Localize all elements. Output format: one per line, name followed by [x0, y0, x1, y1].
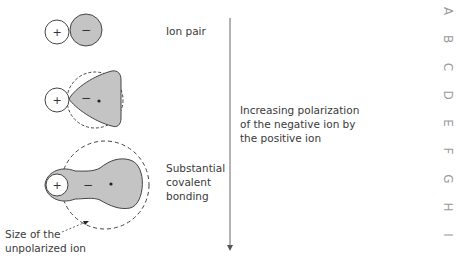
nucleus-dot: [109, 182, 112, 185]
plus-sign: +: [52, 179, 61, 192]
ion-pair-label: Ion pair: [166, 24, 206, 38]
side-index-f: F: [441, 143, 455, 159]
pointer-arrowhead: [83, 221, 89, 225]
polarization-label-line3: the positive ion: [240, 131, 321, 145]
side-index-g: G: [441, 171, 455, 187]
unpolarized-label-line1: Size of the: [5, 227, 61, 241]
polarization-label-line2: of the negative ion by: [240, 117, 356, 131]
side-index-d: D: [441, 87, 455, 103]
minus-sign: −: [81, 91, 91, 105]
minus-sign: −: [81, 23, 91, 37]
side-index-c: C: [441, 59, 455, 75]
covalent-label-line3: bonding: [166, 189, 209, 203]
covalent-label-line2: covalent: [166, 175, 211, 189]
unpolarized-label-line2: unpolarized ion: [5, 241, 86, 255]
side-index-h: H: [441, 199, 455, 215]
nucleus-dot: [97, 99, 100, 102]
plus-sign: +: [52, 26, 61, 39]
covalent-label-line1: Substantial: [166, 161, 225, 175]
polarization-label-line1: Increasing polarization: [240, 103, 359, 117]
plus-sign: +: [52, 94, 61, 107]
minus-sign: −: [83, 178, 93, 192]
pointer-arrow: [62, 222, 86, 232]
increasing-arrow: [227, 18, 233, 251]
side-index-i: I: [441, 227, 455, 243]
side-index-e: E: [441, 115, 455, 131]
polarization-diagram: + − + − + −: [0, 0, 467, 261]
side-index-a: A: [441, 3, 455, 19]
side-index-b: B: [441, 31, 455, 47]
